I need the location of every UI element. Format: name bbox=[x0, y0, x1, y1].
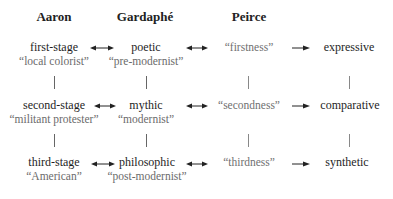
peirce-term: “thirdness” bbox=[223, 155, 275, 169]
gardaphe-stage-3: philosophic “post-modernist” bbox=[107, 155, 186, 183]
result-term: comparative bbox=[320, 98, 379, 112]
peirce-stage-3: “thirdness” bbox=[223, 155, 275, 169]
stage-label: “militant protester” bbox=[9, 112, 98, 126]
double-arrow-icon bbox=[94, 102, 116, 110]
vertical-connector-icon bbox=[54, 76, 55, 89]
aaron-stage-2: second-stage “militant protester” bbox=[9, 98, 98, 126]
right-arrow-icon bbox=[292, 102, 310, 110]
vertical-connector-icon bbox=[349, 76, 350, 89]
double-arrow-icon bbox=[186, 160, 208, 168]
right-arrow-icon bbox=[292, 160, 310, 168]
stage-label: “modernist” bbox=[118, 112, 174, 126]
gardaphe-stage-2: mythic “modernist” bbox=[118, 98, 174, 126]
result-stage-3: synthetic bbox=[325, 155, 368, 169]
vertical-connector-icon bbox=[349, 134, 350, 147]
result-term: synthetic bbox=[325, 155, 368, 169]
result-stage-1: expressive bbox=[324, 40, 375, 54]
gardaphe-stage-1: poetic “pre-modernist” bbox=[109, 40, 184, 68]
header-aaron: Aaron bbox=[36, 9, 71, 25]
double-arrow-icon bbox=[186, 44, 208, 52]
vertical-connector-icon bbox=[146, 134, 147, 147]
stage-term: second-stage bbox=[9, 98, 98, 112]
stage-label: “post-modernist” bbox=[107, 169, 186, 183]
header-gardaphe: Gardaphé bbox=[117, 9, 173, 25]
peirce-term: “firstness” bbox=[225, 40, 274, 54]
stage-term: poetic bbox=[109, 40, 184, 54]
vertical-connector-icon bbox=[248, 76, 249, 89]
stage-term: third-stage bbox=[26, 155, 82, 169]
aaron-stage-1: first-stage “local colorist” bbox=[19, 40, 89, 68]
stage-term: philosophic bbox=[107, 155, 186, 169]
result-term: expressive bbox=[324, 40, 375, 54]
vertical-connector-icon bbox=[54, 134, 55, 147]
vertical-connector-icon bbox=[248, 134, 249, 147]
peirce-stage-2: “secondness” bbox=[218, 98, 280, 112]
aaron-stage-3: third-stage “American” bbox=[26, 155, 82, 183]
stage-term: first-stage bbox=[19, 40, 89, 54]
double-arrow-icon bbox=[91, 160, 115, 168]
double-arrow-icon bbox=[90, 44, 114, 52]
peirce-term: “secondness” bbox=[218, 98, 280, 112]
stage-label: “American” bbox=[26, 169, 82, 183]
result-stage-2: comparative bbox=[320, 98, 379, 112]
double-arrow-icon bbox=[186, 102, 208, 110]
vertical-connector-icon bbox=[146, 76, 147, 89]
peirce-stage-1: “firstness” bbox=[225, 40, 274, 54]
stage-term: mythic bbox=[118, 98, 174, 112]
header-peirce: Peirce bbox=[232, 9, 266, 25]
right-arrow-icon bbox=[292, 44, 310, 52]
stage-label: “pre-modernist” bbox=[109, 54, 184, 68]
stage-label: “local colorist” bbox=[19, 54, 89, 68]
